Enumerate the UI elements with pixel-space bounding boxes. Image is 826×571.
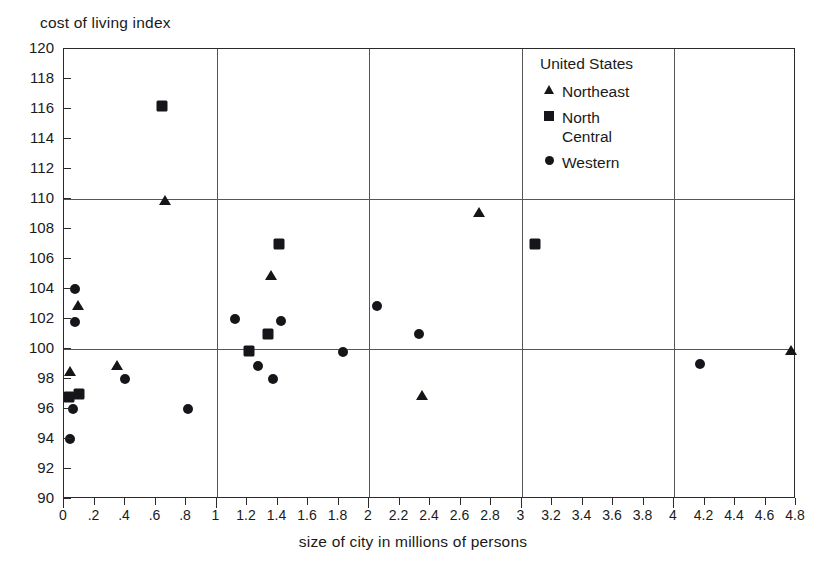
y-axis-tick-label: 108 — [8, 219, 54, 236]
y-axis-tick — [63, 318, 71, 319]
data-point-north-central — [274, 239, 285, 250]
data-point-western — [372, 301, 382, 311]
x-axis-tick-label: 4.4 — [717, 507, 751, 523]
data-point-north-central — [74, 389, 85, 400]
circle-marker-icon — [536, 153, 562, 165]
x-axis-tick — [94, 498, 95, 505]
data-point-northeast — [265, 270, 277, 280]
y-axis-title: cost of living index — [40, 14, 171, 32]
data-point-north-central — [530, 239, 541, 250]
x-axis-tick — [643, 498, 644, 505]
legend-item-northeast[interactable]: Northeast — [536, 82, 706, 101]
square-marker-icon — [536, 108, 562, 121]
y-axis-tick-label: 120 — [8, 39, 54, 56]
x-axis-tick-label: 3 — [504, 507, 538, 523]
data-point-western — [276, 316, 286, 326]
y-axis-tick-label: 102 — [8, 309, 54, 326]
x-axis-tick — [765, 498, 766, 505]
x-axis-tick-label: 1.6 — [290, 507, 324, 523]
x-axis-tick — [582, 498, 583, 505]
legend-item-label: Northeast — [562, 82, 629, 101]
x-axis-tick-label: 3.8 — [626, 507, 660, 523]
y-axis-tick — [63, 378, 71, 379]
y-axis-tick-label: 96 — [8, 399, 54, 416]
y-axis-tick-label: 94 — [8, 429, 54, 446]
y-axis-tick-label: 114 — [8, 129, 54, 146]
x-axis-tick — [277, 498, 278, 505]
x-axis-tick-label: 2.6 — [443, 507, 477, 523]
x-axis-tick — [460, 498, 461, 505]
legend-item-north-central[interactable]: North Central — [536, 108, 706, 146]
data-point-northeast — [72, 300, 84, 310]
legend: United States NortheastNorth CentralWest… — [536, 55, 706, 179]
data-point-northeast — [111, 360, 123, 370]
x-axis-tick-label: .6 — [138, 507, 172, 523]
x-axis-tick-label: 4 — [656, 507, 690, 523]
y-axis-tick — [63, 408, 71, 409]
x-axis-tick — [246, 498, 247, 505]
x-axis-tick — [551, 498, 552, 505]
x-axis-tick-label: 2 — [351, 507, 385, 523]
legend-item-label: Western — [562, 153, 619, 172]
data-point-northeast — [159, 195, 171, 205]
y-axis-tick-label: 118 — [8, 69, 54, 86]
gridline-vertical — [522, 49, 523, 497]
y-axis-tick-label: 112 — [8, 159, 54, 176]
triangle-marker-icon — [536, 82, 562, 94]
y-axis-tick — [63, 48, 71, 49]
y-axis-tick — [63, 438, 71, 439]
legend-item-western[interactable]: Western — [536, 153, 706, 172]
y-axis-tick-label: 90 — [8, 489, 54, 506]
gridline-vertical — [217, 49, 218, 497]
x-axis-tick — [734, 498, 735, 505]
x-axis-tick — [307, 498, 308, 505]
x-axis-tick — [338, 498, 339, 505]
data-point-northeast — [473, 207, 485, 217]
x-axis-tick — [185, 498, 186, 505]
data-point-western — [183, 404, 193, 414]
x-axis-tick-label: 2.4 — [412, 507, 446, 523]
data-point-north-central — [263, 329, 274, 340]
x-axis-tick-label: .8 — [168, 507, 202, 523]
y-axis-tick — [63, 468, 71, 469]
gridline-horizontal — [64, 199, 794, 200]
legend-item-label: North Central — [562, 108, 612, 146]
scatter-chart: cost of living index size of city in mil… — [0, 0, 826, 571]
x-axis-tick-label: 3.4 — [565, 507, 599, 523]
data-point-western — [230, 314, 240, 324]
x-axis-tick — [795, 498, 796, 505]
x-axis-tick — [155, 498, 156, 505]
x-axis-title: size of city in millions of persons — [0, 533, 826, 551]
y-axis-tick-label: 116 — [8, 99, 54, 116]
data-point-western — [120, 374, 130, 384]
x-axis-tick-label: .4 — [107, 507, 141, 523]
y-axis-tick-label: 98 — [8, 369, 54, 386]
x-axis-tick — [490, 498, 491, 505]
x-axis-tick-label: 3.2 — [534, 507, 568, 523]
x-axis-tick-label: 4.2 — [687, 507, 721, 523]
legend-title: United States — [540, 55, 706, 73]
x-axis-tick-label: 1.4 — [260, 507, 294, 523]
gridline-horizontal — [64, 349, 794, 350]
x-axis-tick-label: 4.6 — [748, 507, 782, 523]
y-axis-tick — [63, 228, 71, 229]
x-axis-tick-label: 4.8 — [778, 507, 812, 523]
x-axis-tick-label: 0 — [46, 507, 80, 523]
gridline-vertical — [369, 49, 370, 497]
y-axis-tick — [63, 108, 71, 109]
y-axis-tick-label: 100 — [8, 339, 54, 356]
data-point-western — [70, 284, 80, 294]
data-point-north-central — [63, 392, 74, 403]
data-point-northeast — [64, 366, 76, 376]
x-axis-tick-label: .2 — [77, 507, 111, 523]
y-axis-tick — [63, 258, 71, 259]
x-axis-tick-label: 1.8 — [321, 507, 355, 523]
x-axis-tick-label: 3.6 — [595, 507, 629, 523]
data-point-western — [268, 374, 278, 384]
x-axis-tick — [704, 498, 705, 505]
data-point-north-central — [243, 345, 254, 356]
data-point-northeast — [416, 390, 428, 400]
x-axis-tick — [429, 498, 430, 505]
y-axis-tick — [63, 78, 71, 79]
data-point-western — [253, 361, 263, 371]
